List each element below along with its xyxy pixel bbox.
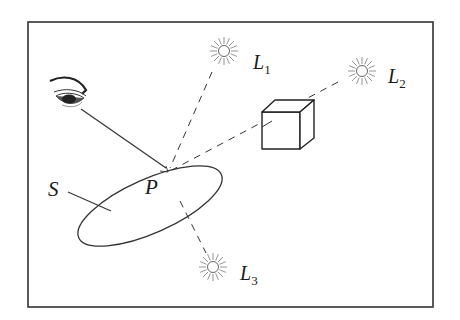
- label-p: P: [144, 175, 158, 199]
- eye-icon: [50, 78, 86, 107]
- label-l1: L1: [252, 51, 271, 77]
- sun-icon-l1: [210, 37, 238, 65]
- sun-icon-l3: [199, 253, 227, 281]
- sight-line: [81, 109, 166, 168]
- label-l3: L3: [239, 262, 258, 288]
- s-pointer-line: [68, 192, 111, 211]
- surface-s: [68, 150, 232, 263]
- diagram: L1 L2 L3 P S: [0, 0, 460, 320]
- label-l2: L2: [387, 65, 406, 91]
- sun-icon-l2: [348, 57, 376, 85]
- ray-l3: [180, 201, 206, 253]
- cube-occluder: [262, 100, 314, 149]
- diagram-frame: [28, 22, 433, 307]
- light-rays: [170, 72, 338, 253]
- ray-l1: [170, 72, 212, 168]
- label-s: S: [48, 177, 59, 201]
